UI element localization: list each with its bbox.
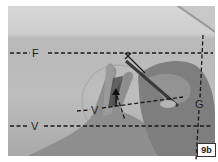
label-f: F <box>32 47 39 59</box>
x-marker <box>125 53 145 73</box>
label-v-bottom: V <box>31 120 39 132</box>
label-v-middle: V <box>91 104 99 116</box>
construction-lines: F V V G <box>0 0 218 162</box>
label-g: G <box>195 98 204 110</box>
figure-badge: 9b <box>197 143 216 157</box>
